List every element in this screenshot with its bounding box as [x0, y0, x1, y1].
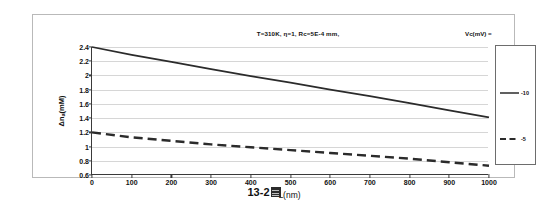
x-tick-mark	[409, 174, 410, 178]
x-tick-label: 500	[285, 179, 297, 186]
y-tick-mark	[89, 61, 92, 62]
x-tick-label: 300	[205, 179, 217, 186]
y-axis-title-suffix: (mM)	[57, 96, 66, 114]
y-tick-label: 0.8	[79, 157, 89, 164]
caption-number: 13-2	[247, 186, 269, 198]
y-tick-mark	[89, 46, 92, 47]
legend-entry--5[interactable]: -5	[499, 134, 537, 144]
y-axis-title-prefix: Δn	[57, 117, 66, 127]
plot-area: 0.60.811.21.41.61.822.22.401002003004005…	[91, 47, 488, 175]
x-tick-mark	[171, 174, 172, 178]
x-tick-label: 200	[166, 179, 178, 186]
x-tick-label: 700	[364, 179, 376, 186]
x-tick-mark	[330, 174, 331, 178]
y-tick-label: 0.6	[79, 172, 89, 179]
legend-label: -5	[521, 136, 526, 142]
series-container	[92, 47, 489, 175]
x-tick-mark	[369, 174, 370, 178]
y-tick-mark	[89, 160, 92, 161]
y-axis-title: Δna(mM)	[57, 96, 66, 127]
x-tick-mark	[131, 174, 132, 178]
y-tick-mark	[89, 132, 92, 133]
x-tick-label: 100	[126, 179, 138, 186]
figure-caption: 13-2	[0, 186, 528, 198]
legend-entry--10[interactable]: -10	[499, 88, 537, 98]
x-tick-label: 0	[90, 179, 94, 186]
chart-title: T=310K, η=1, Rc=5E-4 mm,	[183, 30, 413, 37]
y-tick-label: 2	[85, 72, 89, 79]
x-tick-label: 900	[443, 179, 455, 186]
y-tick-label: 1.8	[79, 86, 89, 93]
y-tick-mark	[89, 75, 92, 76]
series-line--5	[92, 132, 489, 165]
y-tick-label: 1.4	[79, 115, 89, 122]
x-tick-label: 600	[324, 179, 336, 186]
y-tick-mark	[89, 103, 92, 104]
y-tick-label: 2.4	[79, 44, 89, 51]
y-tick-label: 2.2	[79, 58, 89, 65]
y-tick-label: 1.2	[79, 129, 89, 136]
legend-swatch-dashed	[499, 134, 520, 144]
unrendered-cjk-glyph-icon	[271, 187, 281, 197]
x-tick-label: 400	[245, 179, 257, 186]
legend-label: -10	[521, 90, 529, 96]
y-tick-label: 1	[85, 143, 89, 150]
x-tick-label: 1000	[481, 179, 497, 186]
y-tick-mark	[89, 89, 92, 90]
y-tick-mark	[89, 118, 92, 119]
x-tick-mark	[488, 174, 489, 178]
legend-box[interactable]: -10-5	[495, 45, 536, 165]
x-tick-label: 800	[404, 179, 416, 186]
y-tick-mark	[89, 146, 92, 147]
chart-frame: T=310K, η=1, Rc=5E-4 mm, Vc(mV) = 0.60.8…	[32, 14, 515, 178]
x-tick-mark	[211, 174, 212, 178]
x-tick-mark	[91, 174, 92, 178]
x-tick-mark	[449, 174, 450, 178]
y-axis-title-subscript: a	[60, 113, 66, 116]
legend-title: Vc(mV) =	[465, 30, 540, 37]
y-tick-label: 1.6	[79, 100, 89, 107]
x-tick-mark	[290, 174, 291, 178]
legend-swatch-solid	[499, 88, 520, 98]
x-tick-mark	[250, 174, 251, 178]
series-line--10	[92, 47, 489, 117]
